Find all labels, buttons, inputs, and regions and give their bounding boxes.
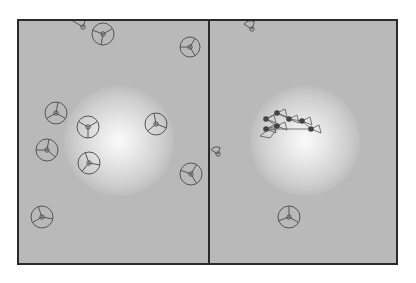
panel-left-scattered (17, 19, 209, 265)
agents-layer-left (19, 21, 209, 263)
agent-dot (274, 110, 280, 116)
agent-icon (72, 21, 86, 29)
panel-right-clustered (208, 19, 398, 265)
agent-dot (308, 126, 314, 132)
agent-dot (274, 123, 280, 129)
agent-icon (92, 23, 114, 45)
agent-dot (263, 116, 269, 122)
agent-icon (145, 113, 167, 135)
agent-icon (77, 116, 99, 138)
agent-icon (211, 147, 220, 156)
agents-layer-right (210, 21, 396, 263)
agent-icon (78, 152, 100, 174)
agent-icon (31, 206, 53, 228)
agent-dot (286, 116, 292, 122)
agent-icon (278, 206, 300, 228)
agent-icon (244, 21, 254, 31)
agent-icon (180, 163, 202, 185)
agent-cluster (260, 109, 321, 138)
agent-dot (299, 118, 305, 124)
agent-icon (45, 102, 67, 124)
agent-icon (180, 37, 200, 57)
agent-dot (263, 126, 269, 132)
agent-icon (36, 139, 58, 161)
